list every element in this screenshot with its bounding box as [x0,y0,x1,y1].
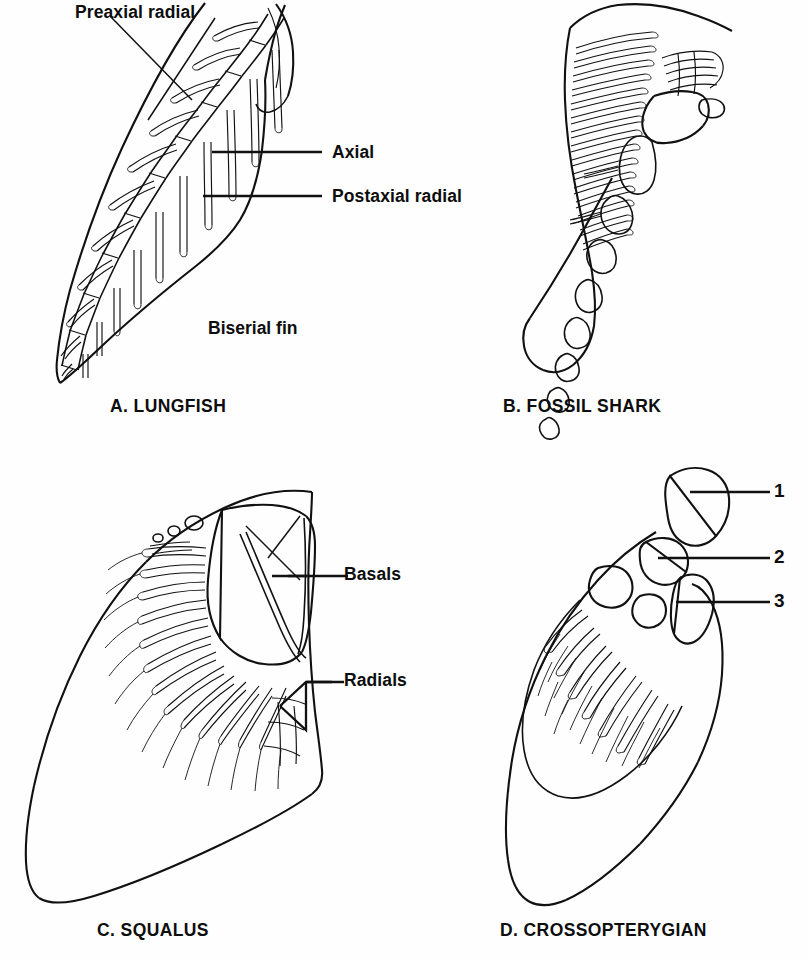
lungfish-proximal-girdle [256,4,293,112]
label-axial: Axial [332,142,374,163]
fossil-shark-ceratotrichia [571,32,658,250]
label-callout-3: 3 [774,590,785,612]
caption-panel-b: B. FOSSIL SHARK [503,396,661,417]
label-biserial-fin: Biserial fin [208,318,297,339]
fossil-shark-fin-drawing [440,0,809,440]
fossil-shark-metapterygium [642,51,724,143]
figure-root: Preaxial radial Axial Postaxial radial B… [0,0,809,960]
label-radials: Radials [344,670,407,691]
crossopterygian-proximal-elements [589,468,729,644]
panel-lungfish: Preaxial radial Axial Postaxial radial B… [0,0,410,440]
panel-crossopterygian: 1 2 3 D. CROSSOPTERYGIAN [440,450,809,960]
label-callout-1: 1 [774,480,785,502]
squalus-fin-drawing [0,450,440,960]
squalus-leader-lines [246,516,348,730]
caption-panel-a: A. LUNGFISH [110,396,226,417]
label-preaxial-radial: Preaxial radial [75,2,195,23]
squalus-basals [208,505,316,665]
caption-panel-c: C. SQUALUS [97,920,209,941]
squalus-fin-outline [26,491,322,903]
lungfish-axial-segments [61,14,284,370]
squalus-proximal-nodules [150,516,203,554]
fossil-shark-axis-segments [539,136,655,439]
lungfish-fin-drawing [0,0,410,440]
caption-panel-d: D. CROSSOPTERYGIAN [500,920,707,941]
crossopterygian-fin-outline [506,532,723,905]
label-callout-2: 2 [774,546,785,568]
label-basals: Basals [344,564,401,585]
crossopterygian-radial-fan [522,600,682,798]
crossopterygian-fin-drawing [440,450,809,960]
panel-fossil-shark: B. FOSSIL SHARK [440,0,809,440]
panel-squalus: Basals Radials C. SQUALUS [0,450,440,960]
squalus-radials [104,547,305,791]
